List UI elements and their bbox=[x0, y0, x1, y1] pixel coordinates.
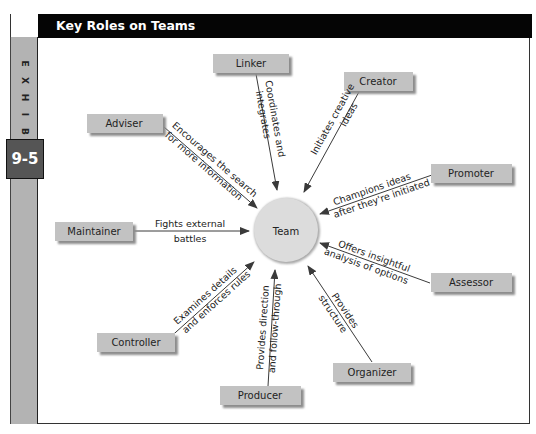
desc-organizer: Provides structure bbox=[317, 286, 362, 337]
role-promoter: Promoter bbox=[431, 164, 515, 186]
role-maintainer-label: Maintainer bbox=[67, 226, 121, 237]
role-controller-label: Controller bbox=[111, 337, 161, 348]
desc-assessor: Offers insightful analysis of options bbox=[323, 234, 414, 286]
team-node: Team bbox=[254, 198, 320, 264]
role-creator: Creator bbox=[344, 72, 416, 94]
desc-adviser-line1: Encourages the search bbox=[170, 119, 259, 199]
desc-linker: Coordinates and integrates bbox=[252, 79, 287, 160]
role-linker-label: Linker bbox=[236, 58, 267, 69]
role-producer: Producer bbox=[220, 386, 304, 408]
role-adviser-label: Adviser bbox=[105, 118, 143, 129]
desc-producer: Provides direction and follow-through bbox=[254, 282, 283, 373]
desc-adviser: Encourages the search for more informati… bbox=[162, 119, 259, 208]
desc-adviser-line2: for more information bbox=[163, 129, 245, 202]
role-maintainer: Maintainer bbox=[55, 222, 136, 244]
desc-maintainer-line2: battles bbox=[174, 233, 207, 244]
role-creator-label: Creator bbox=[359, 76, 397, 87]
desc-promoter: Champions ideas after they're initiated bbox=[328, 165, 431, 220]
desc-maintainer-line1: Fights external bbox=[155, 218, 225, 229]
role-promoter-label: Promoter bbox=[448, 168, 495, 179]
team-roles-diagram: Team Linker Creator Promoter Assessor Or… bbox=[0, 0, 536, 434]
role-linker: Linker bbox=[213, 54, 292, 76]
role-organizer-label: Organizer bbox=[348, 367, 398, 378]
team-label: Team bbox=[272, 226, 299, 237]
role-producer-label: Producer bbox=[238, 390, 283, 401]
role-assessor: Assessor bbox=[431, 273, 515, 295]
role-organizer: Organizer bbox=[333, 363, 414, 385]
role-controller: Controller bbox=[97, 333, 178, 355]
desc-controller: Examines details and enforces rules bbox=[171, 259, 252, 335]
role-adviser: Adviser bbox=[87, 114, 166, 136]
role-assessor-label: Assessor bbox=[449, 277, 494, 288]
